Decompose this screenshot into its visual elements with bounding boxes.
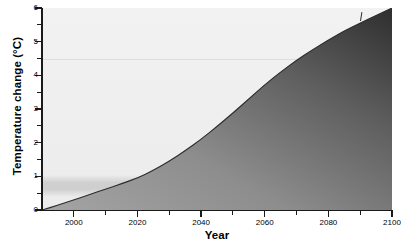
x-tick-minor [360, 210, 361, 215]
y-tick-label: 0 [24, 206, 38, 214]
x-tick-minor [232, 210, 233, 215]
x-tick-major [328, 210, 329, 217]
x-tick-major [264, 210, 265, 217]
y-tick-minor [37, 159, 42, 160]
y-tick-minor [37, 193, 42, 194]
area-fill [42, 8, 392, 210]
y-tick-minor [37, 58, 42, 59]
x-tick-minor [296, 210, 297, 215]
plot-area [42, 8, 392, 210]
x-tick-minor [105, 210, 106, 215]
y-tick-label: 4 [24, 71, 38, 79]
y-tick-label: 2 [24, 139, 38, 147]
x-tick-label: 2020 [123, 219, 153, 227]
y-tick-label: 5 [24, 38, 38, 46]
x-tick-minor [169, 210, 170, 215]
x-tick-major [200, 210, 201, 217]
x-axis-line [41, 210, 392, 212]
y-tick-minor [37, 125, 42, 126]
area-series-svg [42, 8, 392, 210]
x-axis-title: Year [42, 229, 392, 241]
x-tick-label: 2100 [377, 219, 407, 227]
x-tick-label: 2080 [313, 219, 343, 227]
x-tick-label: 2060 [250, 219, 280, 227]
chart-container: 0123456 200020202040206020802100 Tempera… [0, 0, 408, 244]
x-tick-major [73, 210, 74, 217]
y-tick-label: 1 [24, 172, 38, 180]
x-tick-major [391, 210, 392, 217]
x-tick-label: 2040 [186, 219, 216, 227]
x-tick-label: 2000 [59, 219, 89, 227]
y-tick-label: 6 [24, 4, 38, 12]
x-tick-major [137, 210, 138, 217]
y-tick-minor [37, 24, 42, 25]
y-tick-label: 3 [24, 105, 38, 113]
y-tick-minor [37, 92, 42, 93]
y-axis-title: Temperature change (°C) [11, 1, 23, 211]
